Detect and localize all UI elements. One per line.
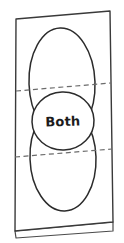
both-venn-diagram: Both (0, 0, 124, 243)
diagram-canvas: Both (0, 0, 124, 243)
both-label: Both (45, 113, 81, 129)
